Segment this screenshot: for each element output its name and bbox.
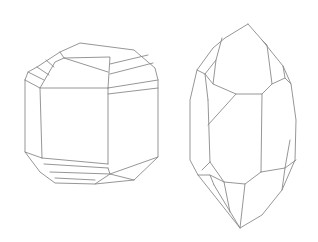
figure xyxy=(0,0,318,242)
crystal-drawings xyxy=(0,0,318,242)
stubby-crystal xyxy=(25,43,158,184)
elongated-crystal xyxy=(190,24,296,228)
